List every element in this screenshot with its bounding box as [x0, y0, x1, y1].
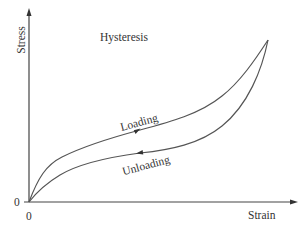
x-axis-label: Strain	[248, 209, 276, 221]
unloading-label: Unloading	[121, 153, 172, 178]
y-axis-label: Stress	[15, 26, 27, 54]
unloading-direction-arrow-icon	[136, 150, 144, 155]
x-origin-label: 0	[26, 210, 32, 222]
y-origin-label: 0	[14, 196, 20, 208]
diagram-title: Hysteresis	[100, 31, 148, 44]
x-axis-arrow-icon	[290, 200, 298, 205]
y-axis-arrow-icon	[27, 8, 32, 16]
hysteresis-diagram: Hysteresis Stress Strain 0 0 Loading Unl…	[0, 0, 307, 234]
